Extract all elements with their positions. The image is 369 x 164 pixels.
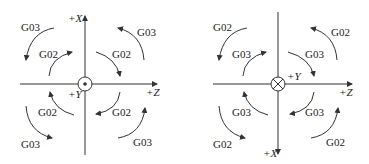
- label-br-outer: G03: [133, 136, 152, 148]
- arc-direction-diagrams: +X +Z +Y G03 G03 G03 G03 G02 G02 G02 G02…: [0, 0, 369, 164]
- label-bl-inner: G03: [232, 106, 251, 118]
- z-axis-label: +Z: [339, 86, 353, 98]
- y-axis-label: +Y: [287, 70, 302, 82]
- x-axis-label: +X: [68, 12, 83, 24]
- label-tr-inner: G03: [305, 48, 324, 60]
- label-tl-outer: G03: [21, 21, 40, 33]
- left-diagram: +X +Z +Y G03 G03 G03 G03 G02 G02 G02 G02: [20, 12, 160, 155]
- label-tr-outer: G03: [137, 26, 156, 38]
- label-br-inner: G02: [112, 106, 131, 118]
- x-axis-label: +X: [263, 147, 278, 159]
- label-bl-outer: G02: [213, 138, 232, 150]
- dot-icon: [83, 82, 87, 86]
- label-tl-inner: G02: [39, 48, 58, 60]
- label-bl-inner: G02: [38, 106, 57, 118]
- label-tl-outer: G02: [213, 21, 232, 33]
- label-br-outer: G02: [326, 136, 345, 148]
- z-axis-label: +Z: [146, 86, 160, 98]
- label-tr-inner: G02: [112, 48, 131, 60]
- label-br-inner: G03: [305, 106, 324, 118]
- right-diagram: +X +Z +Y G02 G02 G02 G02 G03 G03 G03 G03: [213, 12, 353, 159]
- label-tr-outer: G02: [331, 26, 350, 38]
- label-bl-outer: G03: [21, 138, 40, 150]
- label-tl-inner: G03: [232, 48, 251, 60]
